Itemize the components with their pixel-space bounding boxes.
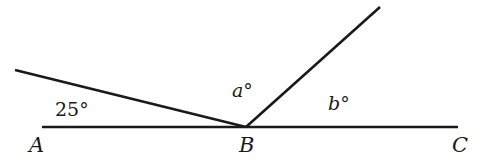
angle-label-b: b°	[328, 94, 350, 113]
angle-diagram: 25° a° b° A B C	[0, 0, 483, 163]
ray-left	[15, 70, 246, 127]
angle-label-a: a°	[232, 81, 253, 100]
angle-label-25: 25°	[55, 100, 89, 119]
point-label-c: C	[452, 135, 468, 156]
ray-upper	[246, 7, 380, 127]
point-label-a: A	[29, 135, 44, 156]
point-label-b: B	[239, 135, 254, 156]
